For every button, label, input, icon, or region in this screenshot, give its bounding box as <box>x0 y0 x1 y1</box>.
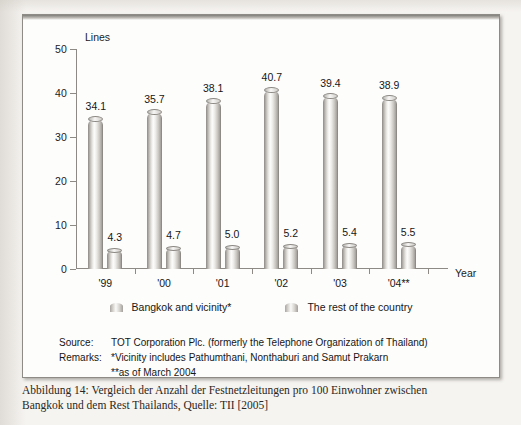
x-separator-tick <box>428 269 429 274</box>
x-separator-tick <box>193 269 194 274</box>
x-tick-label: '02 <box>274 277 288 289</box>
x-tick-label: '01 <box>216 277 230 289</box>
x-tick-label: '99 <box>98 277 112 289</box>
x-separator-tick <box>252 269 253 274</box>
bar-value-label: 38.1 <box>203 82 223 94</box>
bar-value-label: 40.7 <box>262 71 282 83</box>
bar-value-label: 5.0 <box>225 228 240 240</box>
x-separator-tick <box>311 269 312 274</box>
source-row: Source: TOT Corporation Plc. (formerly t… <box>59 335 487 350</box>
x-separator-tick <box>135 269 136 274</box>
source-label: Source: <box>59 335 111 350</box>
legend-label: The rest of the country <box>307 301 412 313</box>
bar-value-label: 38.9 <box>379 79 399 91</box>
x-separator-tick <box>369 269 370 274</box>
bar-group: 39.45.4'03 <box>311 49 370 269</box>
bar-value-label: 4.3 <box>108 231 123 243</box>
bar-rest-of-country <box>225 247 240 269</box>
bar-value-label: 4.7 <box>166 229 181 241</box>
bar-bangkok <box>323 96 338 269</box>
remarks-label: Remarks: <box>59 350 111 365</box>
bar-value-label: 35.7 <box>144 93 164 105</box>
bar-group: 38.15.0'01 <box>193 49 252 269</box>
bar-bangkok <box>88 119 103 269</box>
bar-rest-of-country <box>342 245 357 269</box>
legend-item-bangkok: Bangkok and vicinity* <box>110 301 232 313</box>
bar-value-label: 34.1 <box>86 100 106 112</box>
x-tick-label: '04** <box>388 277 410 289</box>
y-tick-label: 40 <box>55 87 67 99</box>
bar-rest-of-country <box>401 245 416 269</box>
bar-bangkok <box>147 112 162 269</box>
scanned-page: Lines Year 01020304050 34.14.3'9935.74.7… <box>0 0 521 425</box>
bar-value-label: 5.5 <box>401 226 416 238</box>
legend-swatch-icon <box>285 303 298 312</box>
figure-frame: Lines Year 01020304050 34.14.3'9935.74.7… <box>22 14 500 378</box>
bar-rest-of-country <box>166 248 181 269</box>
y-tick-label: 10 <box>55 219 67 231</box>
bar-rest-of-country <box>283 246 298 269</box>
bar-group: 38.95.5'04** <box>369 49 428 269</box>
bar-value-label: 5.2 <box>284 227 299 239</box>
remarks-line-2: **as of March 2004 <box>111 365 487 378</box>
figure-notes: Source: TOT Corporation Plc. (formerly t… <box>59 335 487 378</box>
bar-group: 34.14.3'99 <box>76 49 135 269</box>
x-axis-title: Year <box>455 267 476 279</box>
y-tick-label: 0 <box>61 263 67 275</box>
bar-group: 40.75.2'02 <box>252 49 311 269</box>
legend-swatch-icon <box>110 303 123 312</box>
bar-rest-of-country <box>107 250 122 269</box>
bar-value-label: 5.4 <box>342 226 357 238</box>
x-tick-label: '03 <box>333 277 347 289</box>
figure-caption: Abbildung 14: Vergleich der Anzahl der F… <box>22 383 502 413</box>
remarks-line-1: *Vicinity includes Pathumthani, Nonthabu… <box>111 350 487 365</box>
bar-bangkok <box>206 101 221 269</box>
legend-item-rest-of-country: The rest of the country <box>285 301 412 313</box>
chart-legend: Bangkok and vicinity*The rest of the cou… <box>23 301 499 313</box>
bar-bangkok <box>264 90 279 269</box>
caption-line-1: Abbildung 14: Vergleich der Anzahl der F… <box>22 383 502 398</box>
y-tick-mark <box>70 269 76 270</box>
y-tick-label: 20 <box>55 175 67 187</box>
bar-value-label: 39.4 <box>320 77 340 89</box>
x-tick-label: '00 <box>157 277 171 289</box>
plot-area: 01020304050 34.14.3'9935.74.7'0038.15.0'… <box>76 49 428 269</box>
bar-group: 35.74.7'00 <box>135 49 194 269</box>
remarks-row: Remarks: *Vicinity includes Pathumthani,… <box>59 350 487 365</box>
bar-bangkok <box>382 98 397 269</box>
source-value: TOT Corporation Plc. (formerly the Telep… <box>111 335 487 350</box>
y-axis-title: Lines <box>85 31 110 43</box>
caption-line-2: Bangkok und dem Rest Thailands, Quelle: … <box>22 398 502 413</box>
y-tick-label: 50 <box>55 43 67 55</box>
y-tick-label: 30 <box>55 131 67 143</box>
legend-label: Bangkok and vicinity* <box>132 301 232 313</box>
